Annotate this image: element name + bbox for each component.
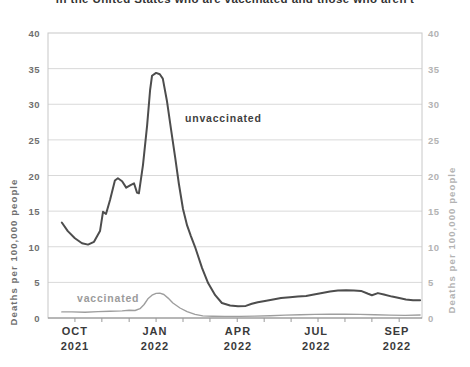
x-tick-label-sep: SEP2022 [383,324,411,354]
annotation-unvaccinated: unvaccinated [185,112,262,124]
y-tick-label-right: 20 [428,170,440,181]
y-tick-label-right: 40 [428,28,440,39]
annotation-vaccinated: vaccinated [77,292,139,304]
y-tick-label-left: 15 [28,206,40,217]
y-tick-label-left: 0 [34,313,40,324]
y-tick-label-right: 30 [428,99,440,110]
x-tick-label-jul: JUL2022 [302,324,330,354]
y-tick-label-left: 30 [28,99,40,110]
y-tick-label-right: 5 [428,277,434,288]
y-tick-label-left: 20 [28,170,40,181]
y-tick-label-left: 25 [28,134,40,145]
y-tick-label-left: 40 [28,28,40,39]
y-tick-label-right: 0 [428,313,434,324]
chart-figure: in the United States who are vaccinated … [0,0,470,367]
y-tick-label-right: 35 [428,63,440,74]
y-tick-label-left: 10 [28,241,40,252]
unvaccinated-line [62,73,420,306]
y-tick-label-right: 15 [428,206,440,217]
x-tick-label-jan: JAN2022 [141,324,169,354]
x-tick-label-apr: APR2022 [224,324,252,354]
y-tick-label-left: 35 [28,63,40,74]
y-tick-label-right: 10 [428,241,440,252]
y-tick-label-right: 25 [428,134,440,145]
y-tick-label-left: 5 [34,277,40,288]
x-tick-label-oct: OCT2021 [61,324,89,354]
chart-svg [0,0,470,367]
